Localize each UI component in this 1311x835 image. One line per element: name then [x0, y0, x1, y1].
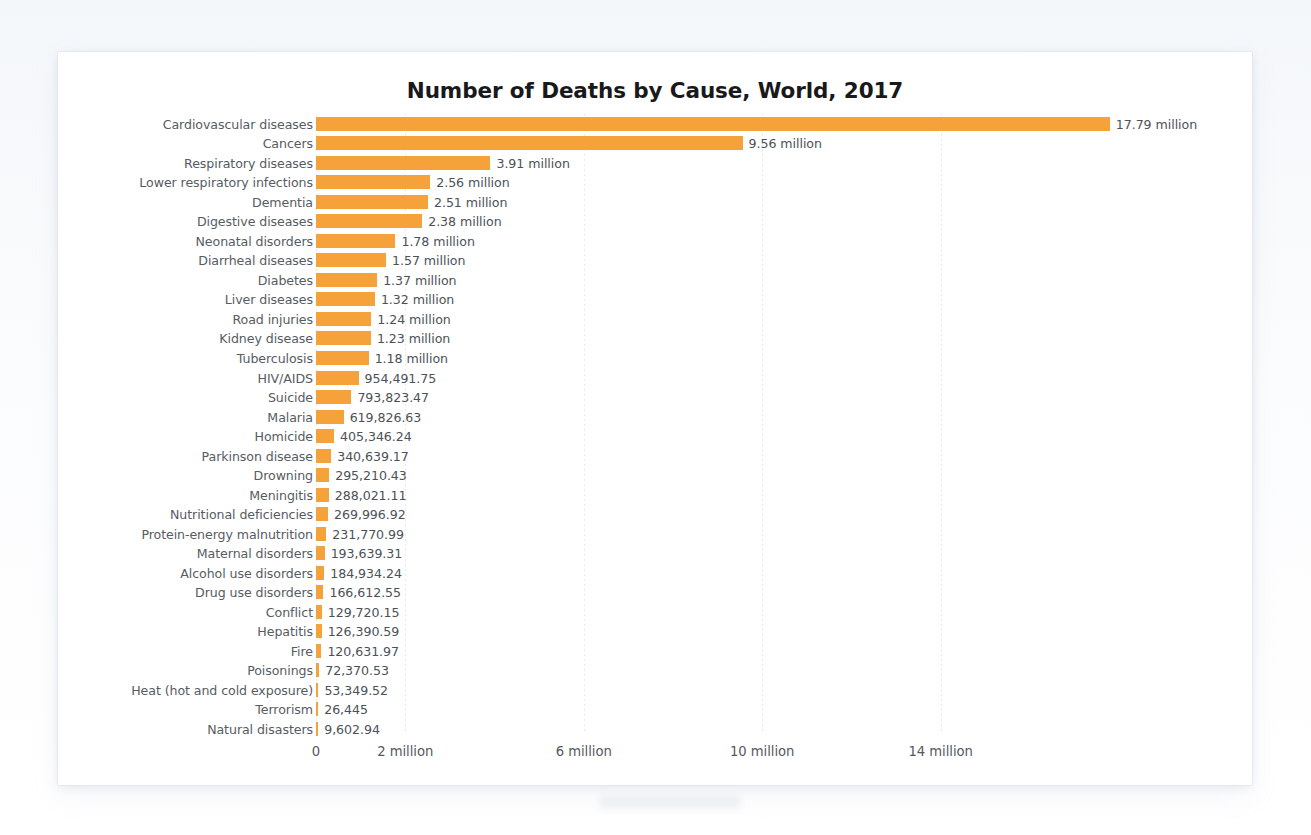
bar-row: Homicide405,346.24	[58, 426, 1252, 446]
bar-row: Lower respiratory infections2.56 million	[58, 173, 1252, 193]
category-label: Fire	[291, 643, 313, 658]
bar[interactable]	[316, 390, 351, 404]
bar[interactable]	[316, 566, 324, 580]
bar[interactable]	[316, 624, 322, 638]
bar[interactable]	[316, 488, 329, 502]
category-label: Terrorism	[255, 702, 313, 717]
bar-chart-plot-area: Cardiovascular diseases17.79 millionCanc…	[58, 52, 1252, 785]
x-tick-label: 0	[312, 744, 320, 759]
value-label: 72,370.53	[325, 663, 389, 678]
value-label: 954,491.75	[365, 370, 437, 385]
bar[interactable]	[316, 156, 490, 170]
value-label: 231,770.99	[332, 526, 404, 541]
bar[interactable]	[316, 195, 428, 209]
category-label: Meningitis	[249, 487, 313, 502]
value-label: 17.79 million	[1116, 116, 1197, 131]
bar-row: Drowning295,210.43	[58, 465, 1252, 485]
bar[interactable]	[316, 702, 318, 716]
bar[interactable]	[316, 683, 318, 697]
category-label: Kidney disease	[219, 331, 313, 346]
value-label: 2.38 million	[428, 214, 501, 229]
bar[interactable]	[316, 273, 377, 287]
value-label: 2.56 million	[436, 175, 509, 190]
category-label: Parkinson disease	[202, 448, 313, 463]
bar[interactable]	[316, 585, 323, 599]
bar[interactable]	[316, 214, 422, 228]
value-label: 619,826.63	[350, 409, 422, 424]
value-label: 9.56 million	[749, 136, 822, 151]
value-label: 340,639.17	[337, 448, 409, 463]
bar[interactable]	[316, 234, 395, 248]
value-label: 405,346.24	[340, 429, 412, 444]
scan-artifact	[600, 795, 740, 809]
value-label: 129,720.15	[328, 604, 400, 619]
bar[interactable]	[316, 312, 371, 326]
value-label: 1.24 million	[377, 311, 450, 326]
bar[interactable]	[316, 331, 371, 345]
category-label: Homicide	[255, 429, 313, 444]
category-label: Protein-energy malnutrition	[141, 526, 313, 541]
value-label: 166,612.55	[329, 585, 401, 600]
category-label: Maternal disorders	[197, 546, 313, 561]
bar-row: Terrorism26,445	[58, 700, 1252, 720]
value-label: 26,445	[324, 702, 368, 717]
value-label: 793,823.47	[357, 390, 429, 405]
bar-row: Natural disasters9,602.94	[58, 719, 1252, 739]
bar[interactable]	[316, 546, 325, 560]
bar[interactable]	[316, 371, 359, 385]
bar-row: Nutritional deficiencies269,996.92	[58, 504, 1252, 524]
value-label: 53,349.52	[324, 682, 388, 697]
bar[interactable]	[316, 663, 319, 677]
bar-row: Dementia2.51 million	[58, 192, 1252, 212]
category-label: Digestive diseases	[197, 214, 313, 229]
bar[interactable]	[316, 527, 326, 541]
category-label: Alcohol use disorders	[180, 565, 313, 580]
bar[interactable]	[316, 410, 344, 424]
category-label: Road injuries	[232, 311, 313, 326]
value-label: 126,390.59	[328, 624, 400, 639]
category-label: Hepatitis	[257, 624, 313, 639]
value-label: 9,602.94	[324, 721, 380, 736]
bar[interactable]	[316, 449, 331, 463]
category-label: Drowning	[254, 468, 313, 483]
bar-row: Hepatitis126,390.59	[58, 622, 1252, 642]
bar[interactable]	[316, 507, 328, 521]
bar-row: Road injuries1.24 million	[58, 309, 1252, 329]
bar-row: Maternal disorders193,639.31	[58, 543, 1252, 563]
value-label: 295,210.43	[335, 468, 407, 483]
bar[interactable]	[316, 292, 375, 306]
bar-row: Respiratory diseases3.91 million	[58, 153, 1252, 173]
bar-row: Meningitis288,021.11	[58, 485, 1252, 505]
category-label: Diabetes	[258, 272, 313, 287]
bar[interactable]	[316, 722, 318, 736]
bar[interactable]	[316, 253, 386, 267]
bar-row: Malaria619,826.63	[58, 407, 1252, 427]
category-label: Liver diseases	[225, 292, 313, 307]
x-tick-label: 10 million	[730, 744, 794, 759]
bar[interactable]	[316, 117, 1110, 131]
bar-row: Heat (hot and cold exposure)53,349.52	[58, 680, 1252, 700]
value-label: 184,934.24	[330, 565, 402, 580]
bar-row: Parkinson disease340,639.17	[58, 446, 1252, 466]
bar[interactable]	[316, 468, 329, 482]
bar-row: HIV/AIDS954,491.75	[58, 368, 1252, 388]
category-label: Dementia	[252, 194, 313, 209]
bar-row: Kidney disease1.23 million	[58, 329, 1252, 349]
value-label: 2.51 million	[434, 194, 507, 209]
value-label: 3.91 million	[496, 155, 569, 170]
bar[interactable]	[316, 644, 321, 658]
category-label: Natural disasters	[207, 721, 313, 736]
category-label: Poisonings	[247, 663, 313, 678]
bar[interactable]	[316, 136, 743, 150]
value-label: 288,021.11	[335, 487, 407, 502]
bar[interactable]	[316, 351, 369, 365]
category-label: Nutritional deficiencies	[170, 507, 313, 522]
bar[interactable]	[316, 429, 334, 443]
category-label: Malaria	[267, 409, 313, 424]
bar[interactable]	[316, 175, 430, 189]
bar[interactable]	[316, 605, 322, 619]
x-tick-label: 6 million	[556, 744, 612, 759]
category-label: Heat (hot and cold exposure)	[131, 682, 313, 697]
page-background: Number of Deaths by Cause, World, 2017 C…	[0, 0, 1311, 835]
value-label: 1.18 million	[375, 350, 448, 365]
